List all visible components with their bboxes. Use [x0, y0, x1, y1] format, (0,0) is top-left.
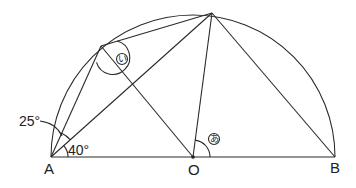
angle-a-label: あ [210, 134, 219, 144]
semicircle-arc [51, 15, 335, 157]
segment-co [101, 46, 193, 157]
segment-ac [51, 46, 101, 157]
geometry-diagram: あ い 40° 25° A O B [0, 0, 356, 188]
angle-arc-25 [62, 133, 71, 140]
point-o-label: O [188, 161, 200, 178]
point-a-label: A [44, 160, 54, 177]
segment-ad [51, 13, 212, 157]
point-b-label: B [330, 159, 340, 176]
angle-arc-a [195, 140, 210, 157]
segment-db [212, 13, 335, 157]
angle-40-label: 40° [68, 142, 89, 158]
angle-25-label: 25° [19, 113, 40, 129]
angle-25-leader [40, 121, 62, 136]
center-point-o [191, 155, 195, 159]
angle-i-label: い [118, 54, 127, 64]
